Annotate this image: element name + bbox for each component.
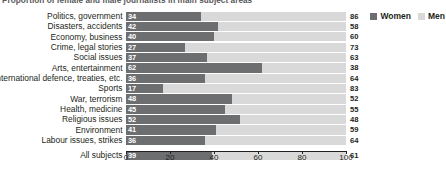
- bar-row[interactable]: Arts, entertainment6238: [0, 63, 446, 73]
- bar-value-men: 83: [350, 84, 358, 93]
- bar-segment-women: [126, 125, 216, 134]
- bar-value-men: 64: [350, 136, 358, 145]
- bar-row[interactable]: Politics, government3486: [0, 11, 446, 21]
- bar-segment-women: [126, 115, 240, 124]
- bar-value-women: 40: [128, 32, 136, 41]
- bar-segment-men: 27: [126, 43, 346, 52]
- bar-value-men: 60: [350, 32, 358, 41]
- bar-value-men: 58: [350, 22, 358, 31]
- bar-segment-men: 34: [126, 12, 346, 21]
- bar-value-men: 48: [350, 115, 358, 124]
- bar-row-label: Disasters, accidents: [0, 21, 123, 31]
- bar-segment-men: 36: [126, 74, 346, 83]
- bar-row[interactable]: Economy, business4060: [0, 32, 446, 42]
- bar-value-men: 38: [350, 63, 358, 72]
- bar-value-women: 37: [128, 53, 136, 62]
- bar-segment-men: 41: [126, 125, 346, 134]
- bar-value-women: 62: [128, 63, 136, 72]
- x-axis-line: [126, 151, 346, 152]
- bar-row-label: Health, medicine: [0, 104, 123, 114]
- bar-segment-men: 36: [126, 136, 346, 145]
- chart-title: Proportion of female and male journalist…: [2, 0, 252, 6]
- bar-value-men: 52: [350, 94, 358, 103]
- bar-value-women: 17: [128, 84, 136, 93]
- bar-row-label: All subjects: [0, 150, 123, 160]
- bar-row[interactable]: International defence, treaties, etc.366…: [0, 73, 446, 83]
- bar-segment-men: 52: [126, 115, 346, 124]
- bar-segment-women: [126, 63, 262, 72]
- bar-segment-women: [126, 94, 232, 103]
- bar-segment-men: 42: [126, 22, 346, 31]
- bar-row-label: International defence, treaties, etc.: [0, 73, 123, 83]
- bar-segment-men: 48: [126, 94, 346, 103]
- bar-row-label: Social issues: [0, 52, 123, 62]
- bar-segment-men: 45: [126, 105, 346, 114]
- bar-row[interactable]: Sports1783: [0, 83, 446, 93]
- bar-value-men: 55: [350, 105, 358, 114]
- bar-value-women: 27: [128, 43, 136, 52]
- bar-rows: Politics, government3486Disasters, accid…: [0, 11, 446, 160]
- bar-row[interactable]: Social issues3763: [0, 52, 446, 62]
- x-axis-tick-label: 100: [339, 153, 352, 162]
- bar-value-women: 34: [128, 12, 136, 21]
- bar-value-women: 36: [128, 136, 136, 145]
- bar-segment-women: [126, 136, 205, 145]
- bar-value-women: 48: [128, 94, 136, 103]
- bar-segment-men: 62: [126, 63, 346, 72]
- bar-value-men: 59: [350, 125, 358, 134]
- bar-row-label: Economy, business: [0, 32, 123, 42]
- plot-area: Politics, government3486Disasters, accid…: [0, 11, 446, 163]
- x-axis-tick-label: 80: [298, 153, 307, 162]
- bar-segment-women: [126, 105, 225, 114]
- bar-row[interactable]: Disasters, accidents4258: [0, 21, 446, 31]
- bar-row[interactable]: Environment4159: [0, 125, 446, 135]
- bar-value-women: 45: [128, 105, 136, 114]
- bar-row-label: Environment: [0, 125, 123, 135]
- bar-value-women: 36: [128, 74, 136, 83]
- bar-segment-women: [126, 32, 214, 41]
- bar-row-label: Politics, government: [0, 11, 123, 21]
- bar-value-men: 86: [350, 12, 358, 21]
- bar-segment-men: 40: [126, 32, 346, 41]
- bar-row[interactable]: War, terrorism4852: [0, 94, 446, 104]
- bar-row-label: War, terrorism: [0, 94, 123, 104]
- bar-row-label: Crime, legal stories: [0, 42, 123, 52]
- x-axis-tick-label: 40: [210, 153, 219, 162]
- bar-segment-women: [126, 22, 218, 31]
- bar-value-men: 73: [350, 43, 358, 52]
- bar-row-label: Religious issues: [0, 114, 123, 124]
- bar-segment-women: [126, 12, 201, 21]
- bar-row[interactable]: Crime, legal stories2773: [0, 42, 446, 52]
- bar-row[interactable]: Religious issues5248: [0, 114, 446, 124]
- bar-segment-women: [126, 74, 205, 83]
- bar-row-label: Arts, entertainment: [0, 63, 123, 73]
- bar-segment-men: 17: [126, 84, 346, 93]
- bar-value-women: 52: [128, 115, 136, 124]
- bar-value-men: 64: [350, 74, 358, 83]
- bar-segment-women: [126, 53, 207, 62]
- x-axis-tick-label: 60: [254, 153, 263, 162]
- bar-segment-men: 37: [126, 53, 346, 62]
- bar-row[interactable]: Labour issues, strikes3664: [0, 135, 446, 145]
- bar-row[interactable]: Health, medicine4555: [0, 104, 446, 114]
- x-axis-tick-label: 0: [124, 153, 128, 162]
- x-axis-tick-label: 20: [166, 153, 175, 162]
- bar-row-label: Sports: [0, 83, 123, 93]
- bar-value-men: 63: [350, 53, 358, 62]
- chart-container: Proportion of female and male journalist…: [0, 0, 446, 174]
- bar-row-label: Labour issues, strikes: [0, 135, 123, 145]
- bar-value-women: 41: [128, 125, 136, 134]
- x-axis: 020406080100: [126, 151, 346, 163]
- bar-value-women: 42: [128, 22, 136, 31]
